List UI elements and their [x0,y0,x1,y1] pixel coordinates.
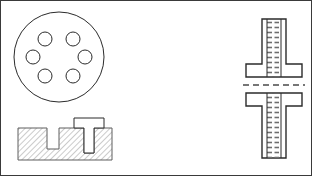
bolt-head-hole [38,32,52,46]
bolt-head-end-view [14,12,104,102]
drawing-canvas [0,0,312,176]
bolt-head-hole [26,50,40,64]
bolt-head-hole [38,69,52,83]
bolt-head-hole [66,69,80,83]
bolt-head-hole [66,32,80,46]
block-hatched-body [18,128,112,160]
tbolt-lower-thread-fill [267,93,281,158]
drawing-sheet [0,0,312,176]
bolt-head-hole [78,50,92,64]
tbolt-upper-thread-fill [267,19,281,77]
